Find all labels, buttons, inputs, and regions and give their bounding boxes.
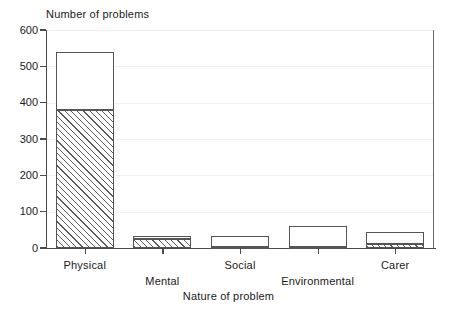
x-axis-title: Nature of problem: [0, 290, 457, 302]
x-tick-mark: [85, 248, 86, 254]
x-tick-mark: [162, 248, 163, 254]
x-tick-label-environmental: Environmental: [281, 275, 354, 287]
y-tick-label: 100: [2, 206, 38, 217]
y-tick-mark: [40, 247, 46, 248]
bar-segment-hatched: [133, 239, 191, 248]
x-tick-label-physical: Physical: [64, 259, 107, 271]
bar-social: [211, 236, 269, 248]
bar-chart: Number of problems 0100200300400500600 P…: [0, 0, 457, 318]
x-tick-mark: [240, 248, 241, 254]
gridline: [47, 30, 433, 31]
y-tick-mark: [40, 138, 46, 139]
x-tick-label-mental: Mental: [145, 275, 179, 287]
y-tick-mark: [40, 102, 46, 103]
y-tick-label: 500: [2, 61, 38, 72]
y-tick-label: 200: [2, 170, 38, 181]
y-tick-label: 0: [2, 243, 38, 254]
y-tick-label: 300: [2, 134, 38, 145]
y-tick-label: 600: [2, 25, 38, 36]
bar-carer: [366, 232, 424, 248]
y-tick-mark: [40, 175, 46, 176]
x-tick-mark: [318, 248, 319, 254]
y-axis-title: Number of problems: [46, 8, 149, 20]
bar-environmental: [289, 226, 347, 249]
bar-segment-white: [56, 52, 114, 110]
bar-segment-white: [289, 226, 347, 247]
x-tick-mark: [395, 248, 396, 254]
bar-segment-hatched: [56, 110, 114, 248]
x-tick-label-carer: Carer: [381, 259, 410, 271]
y-tick-label: 400: [2, 97, 38, 108]
bar-mental: [133, 236, 191, 248]
y-tick-mark: [40, 211, 46, 212]
bar-physical: [56, 52, 114, 248]
bar-segment-white: [211, 236, 269, 247]
bar-segment-white: [366, 232, 424, 244]
x-tick-label-social: Social: [224, 259, 255, 271]
y-tick-mark: [40, 29, 46, 30]
y-tick-mark: [40, 66, 46, 67]
